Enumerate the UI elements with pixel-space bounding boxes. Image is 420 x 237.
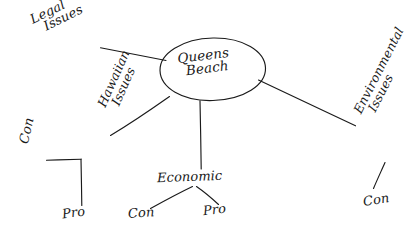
leaf-text-economic-pro: Pro <box>202 201 227 218</box>
leaf-label-economic-con: Con <box>128 205 155 220</box>
edge-center-economic <box>200 101 201 169</box>
edge-hawaiian-con <box>47 159 82 160</box>
edge-economic-con <box>151 187 193 209</box>
mindmap-canvas: Queens Beach Legal Issues Hawaiian Issue… <box>0 0 420 237</box>
edge-hawaiian-pro <box>81 159 82 205</box>
leaf-label-hawaiian-pro: Pro <box>61 204 86 220</box>
edge-environmental-con <box>374 163 386 189</box>
branch-label-economic: Economic <box>157 169 223 185</box>
leaf-text-hawaiian-pro: Pro <box>61 203 86 221</box>
leaf-text-economic-con: Con <box>128 204 155 221</box>
leaf-label-economic-pro: Pro <box>202 202 226 218</box>
edge-center-environmental <box>259 80 356 126</box>
branch-label-economic-line1: Economic <box>157 168 223 185</box>
